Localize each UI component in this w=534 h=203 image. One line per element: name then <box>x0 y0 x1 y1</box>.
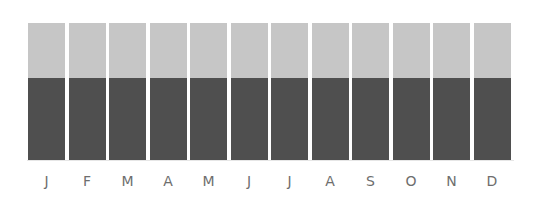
x-tick-label: M <box>109 172 146 190</box>
bar-3 <box>150 23 187 160</box>
bar-2 <box>109 23 146 160</box>
bar-segment-upper <box>433 23 470 78</box>
bar-segment-lower <box>109 78 146 160</box>
bar-segment-upper <box>352 23 389 78</box>
x-tick-label: J <box>271 172 308 190</box>
bar-11 <box>474 23 511 160</box>
bar-segment-lower <box>190 78 227 160</box>
bar-1 <box>69 23 106 160</box>
bar-segment-lower <box>312 78 349 160</box>
x-tick-label: A <box>150 172 187 190</box>
bar-segment-upper <box>69 23 106 78</box>
bar-0 <box>28 23 65 160</box>
bar-4 <box>190 23 227 160</box>
bar-segment-lower <box>231 78 268 160</box>
bar-9 <box>393 23 430 160</box>
bar-5 <box>231 23 268 160</box>
bar-segment-upper <box>190 23 227 78</box>
bar-segment-lower <box>352 78 389 160</box>
bar-segment-upper <box>393 23 430 78</box>
bar-7 <box>312 23 349 160</box>
bar-segment-upper <box>109 23 146 78</box>
bar-segment-lower <box>393 78 430 160</box>
bar-10 <box>433 23 470 160</box>
x-tick-label: F <box>69 172 106 190</box>
bar-segment-upper <box>28 23 65 78</box>
x-tick-label: J <box>28 172 65 190</box>
x-tick-label: M <box>190 172 227 190</box>
bar-segment-upper <box>150 23 187 78</box>
bar-segment-lower <box>150 78 187 160</box>
bar-segment-lower <box>28 78 65 160</box>
stacked-bar-chart <box>28 23 514 160</box>
x-tick-label: O <box>393 172 430 190</box>
bar-segment-lower <box>69 78 106 160</box>
bar-segment-upper <box>312 23 349 78</box>
bar-segment-upper <box>474 23 511 78</box>
bar-segment-lower <box>271 78 308 160</box>
bar-segment-upper <box>231 23 268 78</box>
x-tick-label: J <box>231 172 268 190</box>
x-tick-label: S <box>352 172 389 190</box>
x-tick-label: A <box>312 172 349 190</box>
x-axis-baseline <box>27 160 514 161</box>
bar-6 <box>271 23 308 160</box>
bar-segment-upper <box>271 23 308 78</box>
x-tick-label: N <box>433 172 470 190</box>
x-tick-label: D <box>474 172 511 190</box>
bar-8 <box>352 23 389 160</box>
bar-segment-lower <box>433 78 470 160</box>
bar-segment-lower <box>474 78 511 160</box>
